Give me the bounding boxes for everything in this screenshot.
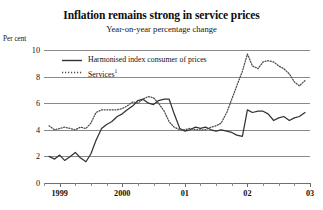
x-tick-mark — [185, 183, 186, 187]
y-tick-label-4: 4 — [36, 125, 40, 134]
y-tick-label-0: 0 — [36, 179, 40, 188]
x-tick-mark — [154, 183, 155, 186]
x-tick-mark — [44, 183, 45, 186]
legend-item-hicp: Harmonised index consumer of prices — [62, 55, 207, 66]
chart-legend: Harmonised index consumer of prices Serv… — [62, 55, 207, 80]
x-tick-mark — [310, 183, 311, 187]
x-tick-label-03: 03 — [306, 189, 314, 198]
x-tick-mark — [60, 183, 61, 187]
x-tick-mark — [247, 183, 248, 187]
y-axis-unit-label: Per cent — [3, 35, 26, 43]
x-tick-label-2000: 2000 — [114, 189, 130, 198]
y-tick-label-10: 10 — [32, 46, 40, 55]
x-tick-mark — [138, 183, 139, 186]
legend-item-services: Services1 — [62, 66, 207, 80]
y-tick-label-8: 8 — [36, 72, 40, 81]
x-tick-mark — [232, 183, 233, 186]
legend-label-services: Services1 — [88, 66, 117, 80]
x-tick-mark — [279, 183, 280, 186]
footnote-marker: 1 — [114, 68, 117, 74]
x-tick-mark — [216, 183, 217, 186]
x-tick-mark — [75, 183, 76, 186]
chart-title: Inflation remains strong in service pric… — [0, 9, 323, 21]
y-tick-label-6: 6 — [36, 99, 40, 108]
x-tick-mark — [122, 183, 123, 187]
x-tick-mark — [91, 183, 92, 186]
x-tick-mark — [263, 183, 264, 186]
x-tick-mark — [294, 183, 295, 186]
x-tick-label-1999: 1999 — [51, 189, 67, 198]
x-tick-mark — [200, 183, 201, 186]
dotted-line-swatch-icon — [62, 70, 82, 75]
chart-figure: Inflation remains strong in service pric… — [0, 0, 323, 210]
legend-label-hicp: Harmonised index consumer of prices — [88, 55, 207, 66]
y-tick-label-2: 2 — [36, 152, 40, 161]
series-line-harmonised-index-consumer-of-prices — [49, 99, 305, 162]
chart-subtitle: Year-on-year percentage change — [0, 24, 323, 34]
x-axis-line — [44, 183, 310, 184]
x-tick-label-01: 01 — [181, 189, 189, 198]
x-tick-mark — [169, 183, 170, 186]
x-tick-mark — [107, 183, 108, 186]
solid-line-swatch-icon — [62, 58, 82, 63]
x-tick-label-02: 02 — [243, 189, 251, 198]
